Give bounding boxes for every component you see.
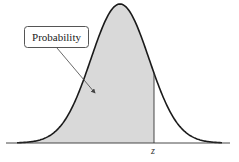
callout-label: Probability [32, 31, 81, 43]
z-axis-label: z [150, 145, 155, 156]
normal-curve-figure: z Probability [0, 0, 239, 162]
